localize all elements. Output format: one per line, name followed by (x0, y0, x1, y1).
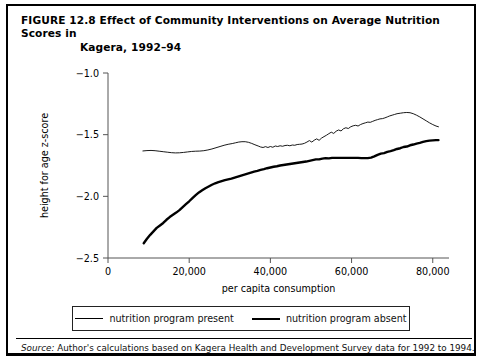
legend-item-absent: nutrition program absent (252, 313, 407, 324)
legend-line-thick-icon (252, 318, 280, 320)
legend-label-absent: nutrition program absent (286, 313, 407, 324)
figure-frame: FIGURE 12.8 Effect of Community Interven… (6, 4, 476, 356)
y-axis-label: height for age z-score (39, 113, 50, 218)
nutrition-score-line-chart: −1.0−1.5−2.0−2.5020,00040,00060,00080,00… (8, 52, 474, 302)
x-tick-label: 0 (105, 266, 111, 277)
source-text: Author's calculations based on Kagera He… (54, 343, 474, 353)
legend-line-thin-icon (75, 318, 103, 319)
legend-item-present: nutrition program present (75, 313, 233, 324)
y-tick-label: −1.0 (76, 68, 99, 79)
y-tick-label: −1.5 (76, 129, 99, 140)
series-line-thin (143, 112, 439, 152)
figure-label: FIGURE 12.8 (21, 14, 96, 26)
series-line-thick (144, 140, 439, 243)
x-tick-label: 80,000 (416, 266, 450, 277)
figure-title: FIGURE 12.8 Effect of Community Interven… (21, 14, 461, 54)
x-tick-label: 60,000 (335, 266, 369, 277)
x-axis-label: per capita consumption (222, 283, 336, 294)
source-prefix: Source: (21, 343, 54, 353)
x-tick-label: 20,000 (172, 266, 206, 277)
legend-label-present: nutrition program present (109, 313, 233, 324)
y-tick-label: −2.0 (76, 191, 99, 202)
source-divider (16, 338, 472, 339)
chart-legend: nutrition program present nutrition prog… (72, 306, 410, 331)
bottom-border (6, 353, 476, 355)
chart-plot-area: −1.0−1.5−2.0−2.5020,00040,00060,00080,00… (8, 52, 474, 302)
y-tick-label: −2.5 (76, 253, 99, 264)
x-tick-label: 40,000 (254, 266, 288, 277)
